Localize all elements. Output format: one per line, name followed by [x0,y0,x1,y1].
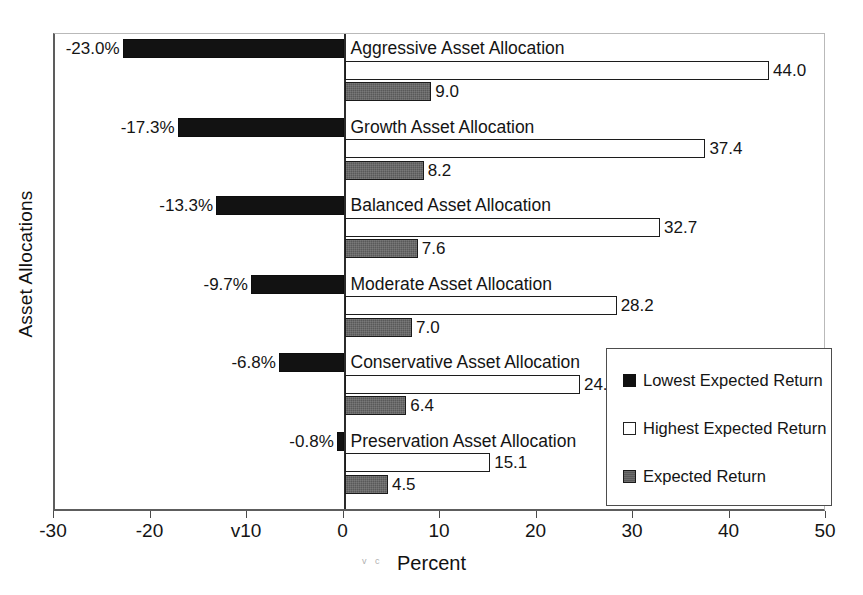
bar-expected-return [345,396,407,415]
legend-item: Expected Return [623,467,766,486]
legend-label: Lowest Expected Return [643,371,823,390]
bar-value-label: 28.2 [617,296,654,315]
category-label: Moderate Asset Allocation [345,275,552,294]
bar-value-label: 4.5 [388,475,416,494]
legend-swatch-icon [623,374,636,387]
bar-highest-expected-return [345,453,491,472]
bar-highest-expected-return [345,375,580,394]
legend-label: Highest Expected Return [643,419,826,438]
bar-value-label: 8.2 [424,161,452,180]
y-axis-title: Asset Allocations [15,134,37,394]
bar-expected-return [345,161,424,180]
bar-highest-expected-return [345,218,661,237]
bar-value-label: -9.7% [203,275,250,294]
bar-value-label: 32.7 [660,218,697,237]
bar-highest-expected-return [345,139,706,158]
bar-highest-expected-return [345,61,770,80]
x-tick-mark [246,511,247,518]
bar-lowest-expected-return [216,196,344,215]
legend-item: Lowest Expected Return [623,371,823,390]
x-tick-label: 20 [501,520,571,542]
x-tick-mark [53,511,54,518]
category-label: Aggressive Asset Allocation [345,39,565,58]
x-tick-label: 10 [404,520,474,542]
bar-value-label: -0.8% [289,432,336,451]
x-tick-label: -30 [18,520,88,542]
x-tick-mark [343,511,344,518]
bar-value-label: 44.0 [769,61,806,80]
bar-value-label: 6.4 [406,396,434,415]
bar-value-label: -13.3% [159,196,216,215]
bar-lowest-expected-return [251,275,345,294]
category-label: Growth Asset Allocation [345,118,535,137]
x-tick-label: 0 [308,520,378,542]
bar-lowest-expected-return [337,432,345,451]
x-tick-label: -20 [115,520,185,542]
x-tick-label: v10 [211,520,281,542]
category-label: Conservative Asset Allocation [345,353,581,372]
x-tick-mark [439,511,440,518]
bar-value-label: 9.0 [431,82,459,101]
bar-lowest-expected-return [279,353,345,372]
x-tick-mark [536,511,537,518]
bar-expected-return [345,82,432,101]
bar-expected-return [345,475,388,494]
category-label: Preservation Asset Allocation [345,432,577,451]
category-label: Balanced Asset Allocation [345,196,551,215]
bar-expected-return [345,318,413,337]
legend-swatch-icon [623,422,636,435]
x-axis-title: Percent [0,552,863,575]
x-tick-mark [825,511,826,518]
bar-value-label: 15.1 [490,453,527,472]
bar-value-label: 7.6 [418,239,446,258]
bar-value-label: -17.3% [121,118,178,137]
x-tick-mark [632,511,633,518]
bar-expected-return [345,239,418,258]
bar-highest-expected-return [345,296,617,315]
bar-value-label: -23.0% [66,39,123,58]
bar-value-label: 37.4 [705,139,742,158]
x-tick-label: 30 [597,520,667,542]
bar-chart: Asset Allocations -23.0%44.09.0Aggressiv… [0,0,863,595]
x-tick-label: 50 [790,520,860,542]
legend-label: Expected Return [643,467,766,486]
bar-value-label: 7.0 [412,318,440,337]
legend-swatch-icon [623,470,636,483]
scan-smudge: v c [362,556,383,566]
bar-lowest-expected-return [178,118,345,137]
x-tick-mark [729,511,730,518]
chart-legend: Lowest Expected ReturnHighest Expected R… [606,348,832,506]
x-tick-mark [150,511,151,518]
legend-item: Highest Expected Return [623,419,826,438]
bar-lowest-expected-return [123,39,345,58]
x-tick-label: 40 [694,520,764,542]
bar-value-label: -6.8% [231,353,278,372]
